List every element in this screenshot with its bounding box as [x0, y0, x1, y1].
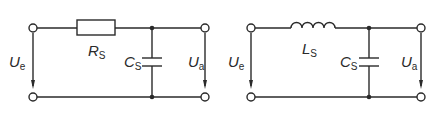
series-label: LS [302, 41, 317, 59]
resistor-icon [77, 20, 115, 35]
input-voltage-label: Ue [9, 54, 25, 72]
label-sub: a [199, 61, 205, 72]
rc-circuit [29, 20, 209, 101]
junction-dot [150, 95, 155, 100]
label-sub: S [99, 50, 106, 61]
label-main: U [401, 53, 412, 70]
label-main: U [9, 53, 20, 70]
output-terminal-top [417, 24, 425, 32]
input-terminal-bottom [247, 93, 255, 101]
label-sub: a [412, 61, 418, 72]
shunt-label: CS [124, 54, 142, 72]
label-sub: S [135, 61, 142, 72]
circuit-diagram [0, 0, 438, 119]
lc-circuit [247, 23, 425, 102]
output-terminal-top [201, 24, 209, 32]
label-sub: e [20, 61, 26, 72]
shunt-label: CS [340, 54, 358, 72]
junction-dot [150, 26, 155, 31]
label-main: C [124, 53, 135, 70]
label-sub: S [351, 61, 358, 72]
output-voltage-label: Ua [188, 54, 204, 72]
arrow-head-icon [31, 80, 35, 89]
junction-dot [367, 95, 372, 100]
label-main: U [228, 53, 239, 70]
input-terminal-top [247, 24, 255, 32]
output-terminal-bottom [417, 93, 425, 101]
arrow-head-icon [203, 80, 207, 89]
label-main: C [340, 53, 351, 70]
arrow-head-icon [249, 80, 253, 89]
input-terminal-top [29, 24, 37, 32]
junction-dot [367, 26, 372, 31]
output-terminal-bottom [201, 93, 209, 101]
label-sub: e [239, 61, 245, 72]
label-main: U [188, 53, 199, 70]
input-voltage-label: Ue [228, 54, 244, 72]
inductor-icon [291, 23, 335, 29]
label-sub: S [310, 48, 317, 59]
arrow-head-icon [419, 80, 423, 89]
series-label: RS [88, 43, 106, 61]
input-terminal-bottom [29, 93, 37, 101]
label-main: R [88, 42, 99, 59]
output-voltage-label: Ua [401, 54, 417, 72]
